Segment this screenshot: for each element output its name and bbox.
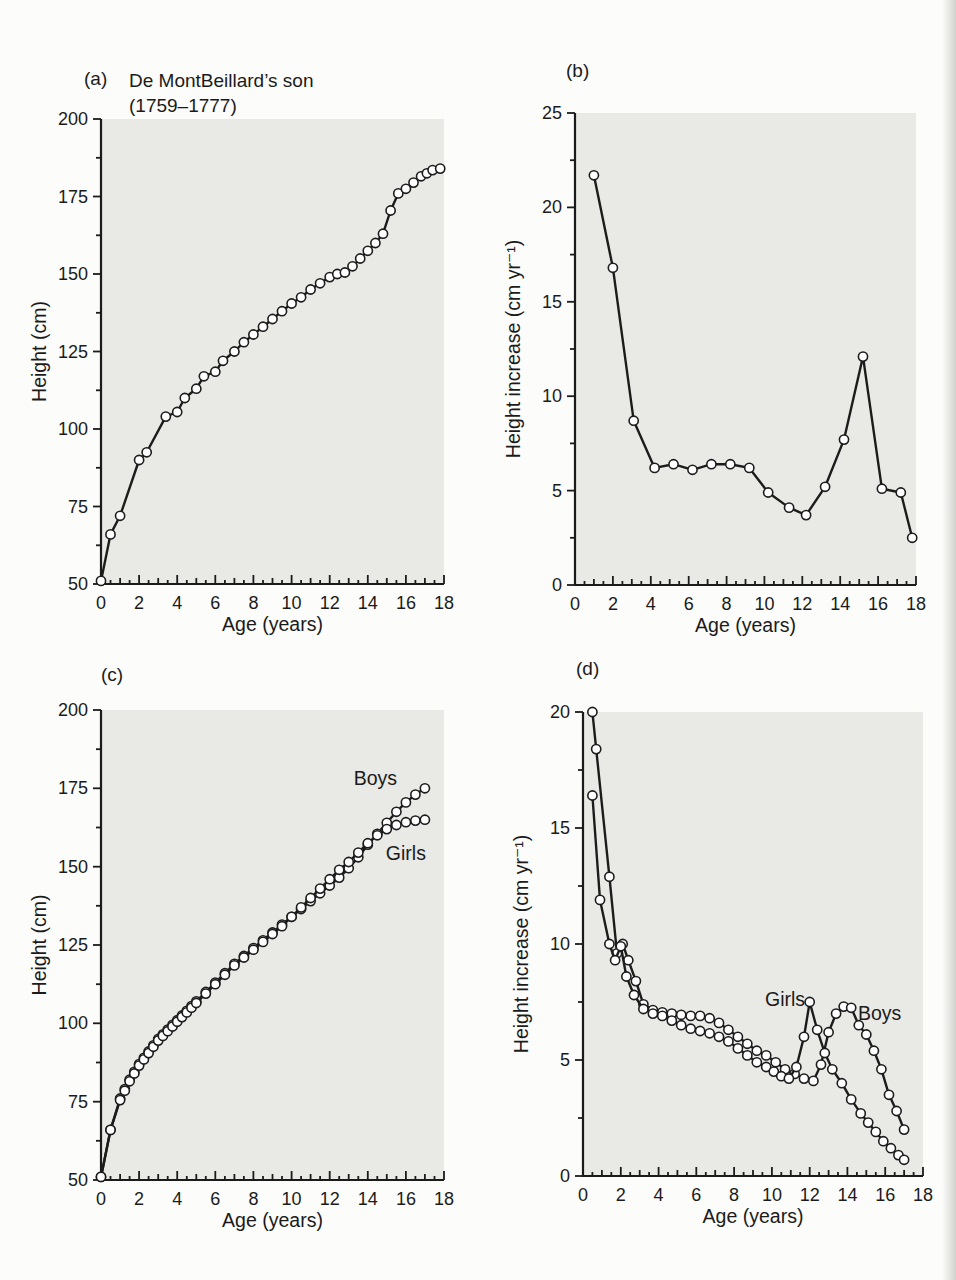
data-point <box>648 1009 657 1018</box>
data-point <box>752 1058 761 1067</box>
x-axis-label: Age (years) <box>695 614 796 636</box>
data-point <box>595 895 604 904</box>
x-tick-label: 2 <box>134 593 144 613</box>
data-point <box>306 893 315 902</box>
data-point <box>784 1074 793 1083</box>
x-tick-label: 6 <box>691 1185 701 1205</box>
data-point <box>356 254 365 263</box>
data-point <box>762 1051 771 1060</box>
data-point <box>180 393 189 402</box>
y-axis-label: Height increase (cm yr⁻¹) <box>502 240 524 458</box>
x-tick-label: 16 <box>396 1189 416 1209</box>
data-point <box>771 1058 780 1067</box>
x-tick-label: 14 <box>358 593 378 613</box>
y-tick-label: 20 <box>542 197 562 217</box>
data-point <box>411 816 420 825</box>
data-point <box>363 839 372 848</box>
data-point <box>239 338 248 347</box>
data-point <box>230 347 239 356</box>
x-axis-label: Age (years) <box>703 1205 804 1227</box>
boys-label: Boys <box>354 767 398 789</box>
data-point <box>199 372 208 381</box>
x-tick-label: 18 <box>434 593 454 613</box>
data-point <box>258 322 267 331</box>
data-point <box>669 460 678 469</box>
data-point <box>858 352 867 361</box>
data-point <box>161 412 170 421</box>
x-tick-label: 6 <box>210 1189 220 1209</box>
y-tick-label: 25 <box>542 103 562 123</box>
y-tick-label: 50 <box>68 1170 88 1190</box>
y-ticks: 05101520 <box>550 702 583 1186</box>
plot-area <box>583 712 923 1176</box>
data-point <box>287 912 296 921</box>
x-tick-label: 14 <box>830 594 850 614</box>
data-point <box>297 293 306 302</box>
y-tick-label: 125 <box>58 342 88 362</box>
y-tick-label: 100 <box>58 1013 88 1033</box>
y-tick-label: 175 <box>58 187 88 207</box>
data-point <box>884 1090 893 1099</box>
data-point <box>686 1024 695 1033</box>
x-tick-label: 16 <box>868 594 888 614</box>
data-point <box>900 1155 909 1164</box>
data-point <box>908 533 917 542</box>
data-point <box>792 1062 801 1071</box>
data-point <box>733 1044 742 1053</box>
data-point <box>629 990 638 999</box>
data-point <box>382 825 391 834</box>
data-point <box>348 262 357 271</box>
data-point <box>892 1106 901 1115</box>
data-point <box>258 937 267 946</box>
data-point <box>686 1011 695 1020</box>
data-point <box>764 488 773 497</box>
y-axis-label: Height (cm) <box>28 895 50 996</box>
data-point <box>211 980 220 989</box>
data-point <box>401 798 410 807</box>
chart-d: 02468101214161805101520Age (years)Height… <box>478 640 956 1280</box>
y-axis-label: Height increase (cm yr⁻¹) <box>510 835 532 1053</box>
data-point <box>832 1009 841 1018</box>
data-point <box>239 953 248 962</box>
data-point <box>363 246 372 255</box>
x-tick-label: 2 <box>616 1185 626 1205</box>
x-tick-label: 10 <box>754 594 774 614</box>
data-point <box>847 1003 856 1012</box>
chart-b: 0246810121416180510152025Age (years)Heig… <box>478 0 956 640</box>
data-point <box>316 884 325 893</box>
data-point <box>287 299 296 308</box>
y-tick-label: 15 <box>542 292 562 312</box>
data-point <box>862 1030 871 1039</box>
data-point <box>877 484 886 493</box>
data-point <box>588 791 597 800</box>
data-point <box>733 1032 742 1041</box>
x-tick-label: 8 <box>248 1189 258 1209</box>
data-point <box>864 1118 873 1127</box>
data-point <box>677 1010 686 1019</box>
y-tick-label: 10 <box>550 934 570 954</box>
data-point <box>871 1127 880 1136</box>
data-point <box>688 465 697 474</box>
x-tick-label: 10 <box>282 593 302 613</box>
data-point <box>142 448 151 457</box>
y-tick-label: 10 <box>542 386 562 406</box>
data-point <box>805 997 814 1006</box>
data-point <box>420 815 429 824</box>
data-point <box>306 285 315 294</box>
data-point <box>392 807 401 816</box>
data-point <box>392 820 401 829</box>
y-tick-label: 100 <box>58 419 88 439</box>
data-point <box>220 970 229 979</box>
data-point <box>714 1032 723 1041</box>
data-point <box>743 1051 752 1060</box>
data-point <box>106 530 115 539</box>
data-point <box>705 1029 714 1038</box>
data-point <box>589 171 598 180</box>
data-point <box>436 164 445 173</box>
data-point <box>707 460 716 469</box>
data-point <box>856 1109 865 1118</box>
data-point <box>869 1046 878 1055</box>
data-point <box>847 1095 856 1104</box>
data-point <box>622 972 631 981</box>
data-point <box>616 942 625 951</box>
